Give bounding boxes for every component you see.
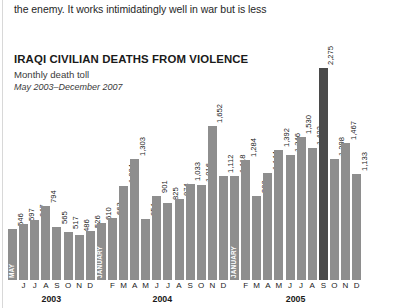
bar-slot: 597 bbox=[19, 40, 28, 280]
month-tick-label: A bbox=[41, 281, 50, 290]
month-tick-label: N bbox=[208, 281, 217, 290]
month-tick-label: J bbox=[163, 281, 172, 290]
month-tick-label: M bbox=[119, 281, 128, 290]
bar-slot: 901 bbox=[152, 40, 161, 280]
bar-plot-area: 546MAY597647794565517486526610JANUARY663… bbox=[0, 40, 401, 280]
month-tick-label: F bbox=[108, 281, 117, 290]
bar-slot: 1,004 bbox=[119, 40, 128, 280]
bar[interactable] bbox=[119, 186, 128, 280]
body-paragraph: the enemy. It works intimidatingly well … bbox=[14, 2, 389, 16]
bar-slot: 486 bbox=[75, 40, 84, 280]
month-tick-label: O bbox=[197, 281, 206, 290]
bar[interactable] bbox=[52, 227, 61, 280]
month-tick-label: J bbox=[152, 281, 161, 290]
bar[interactable] bbox=[197, 185, 206, 280]
bar[interactable] bbox=[30, 220, 39, 280]
month-tick-label: D bbox=[86, 281, 95, 290]
month-tick-label: J bbox=[30, 281, 39, 290]
bar-slot: 1,144 bbox=[263, 40, 272, 280]
year-group-label: 2004 bbox=[97, 294, 228, 304]
year-group-label: 2003 bbox=[8, 294, 95, 304]
month-tick-label: S bbox=[319, 281, 328, 290]
bar-slot: 526 bbox=[86, 40, 95, 280]
month-tick-label: J bbox=[297, 281, 306, 290]
bar[interactable] bbox=[175, 199, 184, 280]
bar-slot: 517 bbox=[64, 40, 73, 280]
bar[interactable] bbox=[308, 148, 317, 281]
bar-slot: 663 bbox=[108, 40, 117, 280]
bar-slot: 825 bbox=[163, 40, 172, 280]
bar-slot: 794 bbox=[41, 40, 50, 280]
bar-slot: 1,346 bbox=[286, 40, 295, 280]
month-tick-label: M bbox=[141, 281, 150, 290]
bar-slot: 1,033 bbox=[186, 40, 195, 280]
bar[interactable] bbox=[108, 218, 117, 280]
bar[interactable] bbox=[152, 196, 161, 280]
bar-slot: 1,530 bbox=[297, 40, 306, 280]
month-tick-label: A bbox=[175, 281, 184, 290]
bar[interactable] bbox=[186, 184, 195, 280]
year-group-label: 2005 bbox=[230, 294, 361, 304]
bar[interactable] bbox=[19, 224, 28, 280]
bar[interactable] bbox=[274, 150, 283, 280]
bar[interactable] bbox=[163, 203, 172, 280]
bar-slot: 565 bbox=[52, 40, 61, 280]
month-tick-label: O bbox=[64, 281, 73, 290]
bar[interactable] bbox=[297, 137, 306, 280]
month-tick-label: A bbox=[263, 281, 272, 290]
bar-slot: 1,016 bbox=[197, 40, 206, 280]
bar[interactable] bbox=[130, 159, 139, 280]
chart-figure: IRAQI CIVILIAN DEATHS FROM VIOLENCE Mont… bbox=[0, 40, 401, 308]
bar-slot: 1,392 bbox=[274, 40, 283, 280]
bar-slot: 546MAY bbox=[8, 40, 17, 280]
bar-slot: 1,133 bbox=[352, 40, 361, 280]
chart-x-axis: JJASONDFMAMJJASONDFMAMJJASOND20032004200… bbox=[0, 280, 401, 308]
bar-slot: 874 bbox=[175, 40, 184, 280]
bar-slot: 2,275 bbox=[319, 40, 328, 280]
bar[interactable] bbox=[286, 155, 295, 280]
month-tick-label: O bbox=[330, 281, 339, 290]
bar[interactable] bbox=[330, 159, 339, 280]
bar-slot: 610JANUARY bbox=[97, 40, 106, 280]
bar[interactable] bbox=[352, 174, 361, 280]
bar[interactable] bbox=[341, 143, 350, 280]
bar[interactable] bbox=[75, 235, 84, 280]
bar[interactable] bbox=[241, 160, 250, 280]
month-tick-label: A bbox=[130, 281, 139, 290]
bar-slot: 1,652 bbox=[208, 40, 217, 280]
month-tick-label: M bbox=[274, 281, 283, 290]
bar[interactable] bbox=[263, 173, 272, 280]
month-tick-label: J bbox=[286, 281, 295, 290]
bar-slot: 647 bbox=[30, 40, 39, 280]
bar-slot: 902 bbox=[252, 40, 261, 280]
bar[interactable] bbox=[252, 196, 261, 280]
month-tick-label: M bbox=[252, 281, 261, 290]
bar-slot: 654 bbox=[141, 40, 150, 280]
month-tick-label: D bbox=[219, 281, 228, 290]
bar-slot: 1,112 bbox=[219, 40, 228, 280]
bar[interactable] bbox=[319, 68, 328, 280]
month-tick-label: F bbox=[241, 281, 250, 290]
bar[interactable] bbox=[141, 219, 150, 280]
bar[interactable] bbox=[41, 206, 50, 280]
bar[interactable] bbox=[86, 231, 95, 280]
month-tick-label: A bbox=[308, 281, 317, 290]
month-tick-label: J bbox=[19, 281, 28, 290]
month-tick-label: N bbox=[341, 281, 350, 290]
bar[interactable] bbox=[64, 232, 73, 280]
bar-slot: 1,422 bbox=[308, 40, 317, 280]
bar-slot: 1,118JANUARY bbox=[230, 40, 239, 280]
bar-slot: 1,303 bbox=[130, 40, 139, 280]
bar[interactable] bbox=[208, 126, 217, 280]
bar-slot: 1,467 bbox=[341, 40, 350, 280]
bar-slot: 1,284 bbox=[241, 40, 250, 280]
bar-slot: 1,298 bbox=[330, 40, 339, 280]
month-tick-label: D bbox=[352, 281, 361, 290]
month-tick-label: N bbox=[75, 281, 84, 290]
month-tick-label: S bbox=[186, 281, 195, 290]
bar[interactable] bbox=[219, 176, 228, 280]
month-tick-label: S bbox=[52, 281, 61, 290]
